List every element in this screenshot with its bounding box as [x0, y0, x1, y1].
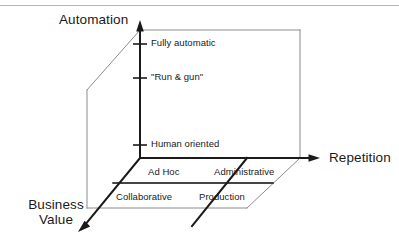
automation-axis-label: Automation — [59, 12, 128, 27]
repetition-axis-label: Repetition — [329, 150, 391, 165]
tick-label-human-oriented: Human oriented — [151, 139, 219, 150]
tick-label-fully-automatic: Fully automatic — [151, 38, 216, 49]
floor-cell-production: Production — [199, 192, 245, 203]
left-panel-top-diagonal — [87, 30, 140, 90]
diagram-root: Automation Repetition Business Value Ful… — [0, 0, 399, 250]
business-value-axis-label-line2: Value — [22, 212, 90, 227]
floor-cell-collaborative: Collaborative — [116, 192, 172, 203]
business-value-axis-label-line1: Business — [22, 197, 90, 212]
floor-cell-administrative: Administrative — [214, 167, 274, 178]
automation-arrowhead — [136, 20, 144, 32]
back-panel-lines — [87, 30, 300, 208]
floor-cell-ad-hoc: Ad Hoc — [148, 167, 179, 178]
repetition-arrowhead — [309, 154, 321, 162]
tick-label-run-and-gun: "Run & gun" — [151, 72, 203, 83]
